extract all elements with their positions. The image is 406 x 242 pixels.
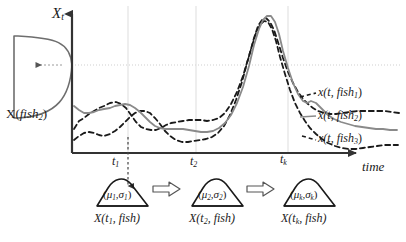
left-distribution-label: X(fish2) bbox=[6, 107, 47, 122]
distribution-params-2: (μ2,σ2) bbox=[198, 189, 226, 202]
distribution-caption-3: X(tk, fish) bbox=[281, 212, 327, 226]
legend-leader-fish1 bbox=[300, 93, 316, 97]
legend-item-fish3: x(t, fish3) bbox=[318, 132, 362, 146]
legend-leader-fish3 bbox=[302, 136, 316, 140]
legend-leader-fish2 bbox=[300, 116, 316, 117]
figure-canvas: Xt time X(fish2) x(t, fish1) x(t, fish2)… bbox=[0, 0, 406, 242]
legend-item-fish2: x(t, fish2) bbox=[318, 109, 362, 123]
transition-arrow-2-to-k bbox=[247, 182, 274, 196]
time-tick-t1: t1 bbox=[112, 155, 119, 169]
legend-item-fish1: x(t, fish1) bbox=[318, 86, 362, 100]
y-axis-label: Xt bbox=[52, 6, 64, 22]
time-tick-t2: t2 bbox=[190, 155, 197, 169]
distribution-params-1: (μ1,σ1) bbox=[103, 189, 131, 202]
distribution-caption-2: X(t2, fish) bbox=[189, 212, 235, 226]
distribution-caption-1: X(t1, fish) bbox=[94, 212, 140, 226]
distribution-params-3: (μk,σk) bbox=[290, 189, 318, 202]
time-tick-tk: tk bbox=[280, 153, 287, 167]
x-axis-label: time bbox=[362, 160, 384, 173]
transition-arrow-1-to-2 bbox=[153, 182, 180, 196]
